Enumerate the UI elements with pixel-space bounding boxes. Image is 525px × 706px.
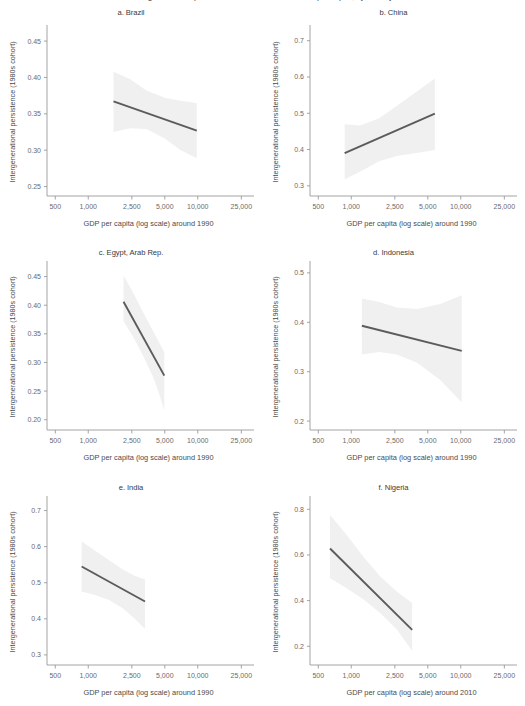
fit-line-egypt bbox=[124, 302, 165, 376]
x-tick-label: 5,000 bbox=[156, 203, 174, 210]
x-tick-label: 25,000 bbox=[231, 437, 253, 444]
x-tick-label: 2,500 bbox=[123, 437, 141, 444]
y-tick-label: 0.40 bbox=[27, 302, 41, 309]
y-tick-label: 0.5 bbox=[294, 110, 304, 117]
confidence-band-egypt bbox=[124, 275, 165, 410]
y-tick-label: 0.25 bbox=[27, 388, 41, 395]
y-tick-label: 0.4 bbox=[294, 319, 304, 326]
panel-grid: a. Brazil0.250.300.350.400.455001,0002,5… bbox=[0, 0, 525, 706]
x-tick-label: 1,000 bbox=[79, 672, 97, 679]
x-tick-label: 5,000 bbox=[156, 437, 174, 444]
y-tick-label: 0.2 bbox=[294, 643, 304, 650]
x-tick-label: 25,000 bbox=[494, 203, 516, 210]
x-tick-label: 5,000 bbox=[156, 672, 174, 679]
x-tick-label: 5,000 bbox=[419, 203, 437, 210]
y-axis-title: Intergenerational persistence (1980s coh… bbox=[8, 41, 17, 182]
y-tick-label: 0.4 bbox=[294, 597, 304, 604]
x-tick-label: 25,000 bbox=[494, 437, 516, 444]
x-tick-label: 500 bbox=[49, 203, 61, 210]
y-tick-label: 0.30 bbox=[27, 147, 41, 154]
x-tick-label: 500 bbox=[312, 672, 324, 679]
x-tick-label: 500 bbox=[312, 437, 324, 444]
confidence-band-nigeria bbox=[330, 515, 412, 651]
x-tick-label: 10,000 bbox=[187, 672, 209, 679]
y-tick-label: 0.6 bbox=[294, 551, 304, 558]
fit-line-nigeria bbox=[330, 549, 412, 630]
y-axis-title: Intergenerational persistence (1980s coh… bbox=[8, 511, 17, 652]
chart-svg-nigeria: 0.20.40.60.85001,0002,5005,00010,00025,0… bbox=[262, 475, 525, 706]
x-tick-label: 500 bbox=[49, 437, 61, 444]
y-tick-label: 0.7 bbox=[294, 37, 304, 44]
confidence-band-brazil bbox=[113, 72, 196, 159]
y-axis-title: Intergenerational persistence (1980s coh… bbox=[8, 276, 17, 417]
x-tick-label: 5,000 bbox=[419, 437, 437, 444]
chart-panel-china: b. China0.30.40.50.60.75001,0002,5005,00… bbox=[262, 0, 525, 240]
confidence-band-indonesia bbox=[362, 295, 462, 402]
y-tick-label: 0.2 bbox=[294, 418, 304, 425]
x-tick-label: 500 bbox=[312, 203, 324, 210]
x-tick-label: 500 bbox=[49, 672, 61, 679]
chart-svg-china: 0.30.40.50.60.75001,0002,5005,00010,0002… bbox=[262, 0, 525, 240]
x-axis-title: GDP per capita (log scale) around 2010 bbox=[346, 688, 476, 697]
y-tick-label: 0.45 bbox=[27, 273, 41, 280]
x-tick-label: 1,000 bbox=[342, 203, 360, 210]
x-tick-label: 25,000 bbox=[494, 672, 516, 679]
y-tick-label: 0.5 bbox=[31, 579, 41, 586]
y-tick-label: 0.7 bbox=[31, 507, 41, 514]
chart-panel-egypt: c. Egypt, Arab Rep.0.200.250.300.350.400… bbox=[0, 240, 262, 475]
x-axis-title: GDP per capita (log scale) around 1990 bbox=[83, 453, 213, 462]
x-tick-label: 1,000 bbox=[342, 672, 360, 679]
chart-panel-brazil: a. Brazil0.250.300.350.400.455001,0002,5… bbox=[0, 0, 262, 240]
x-tick-label: 25,000 bbox=[231, 203, 253, 210]
chart-svg-brazil: 0.250.300.350.400.455001,0002,5005,00010… bbox=[0, 0, 262, 240]
confidence-band-china bbox=[345, 78, 435, 179]
x-axis-title: GDP per capita (log scale) around 1990 bbox=[346, 453, 476, 462]
x-axis-title: GDP per capita (log scale) around 1990 bbox=[83, 219, 213, 228]
y-axis-title: Intergenerational persistence (1980s coh… bbox=[271, 511, 280, 652]
x-tick-label: 10,000 bbox=[450, 672, 472, 679]
chart-svg-indonesia: 0.20.30.40.55001,0002,5005,00010,00025,0… bbox=[262, 240, 525, 475]
y-tick-label: 0.3 bbox=[294, 182, 304, 189]
y-tick-label: 0.35 bbox=[27, 110, 41, 117]
y-tick-label: 0.40 bbox=[27, 74, 41, 81]
y-tick-label: 0.5 bbox=[294, 269, 304, 276]
y-tick-label: 0.8 bbox=[294, 506, 304, 513]
x-axis-title: GDP per capita (log scale) around 1990 bbox=[346, 219, 476, 228]
x-tick-label: 2,500 bbox=[386, 203, 404, 210]
y-tick-label: 0.30 bbox=[27, 359, 41, 366]
x-tick-label: 2,500 bbox=[386, 437, 404, 444]
x-tick-label: 25,000 bbox=[231, 672, 253, 679]
confidence-band-india bbox=[82, 542, 145, 629]
y-axis-title: Intergenerational persistence (1980s coh… bbox=[271, 276, 280, 417]
x-tick-label: 2,500 bbox=[123, 672, 141, 679]
y-tick-label: 0.6 bbox=[294, 73, 304, 80]
y-tick-label: 0.35 bbox=[27, 330, 41, 337]
x-tick-label: 10,000 bbox=[187, 437, 209, 444]
x-tick-label: 10,000 bbox=[450, 203, 472, 210]
chart-svg-india: 0.30.40.50.60.75001,0002,5005,00010,0002… bbox=[0, 475, 262, 706]
chart-panel-nigeria: f. Nigeria0.20.40.60.85001,0002,5005,000… bbox=[262, 475, 525, 706]
y-tick-label: 0.45 bbox=[27, 38, 41, 45]
y-tick-label: 0.4 bbox=[294, 146, 304, 153]
chart-svg-egypt: 0.200.250.300.350.400.455001,0002,5005,0… bbox=[0, 240, 262, 475]
y-tick-label: 0.6 bbox=[31, 543, 41, 550]
y-tick-label: 0.4 bbox=[31, 615, 41, 622]
y-tick-label: 0.20 bbox=[27, 416, 41, 423]
chart-panel-indonesia: d. Indonesia0.20.30.40.55001,0002,5005,0… bbox=[262, 240, 525, 475]
x-tick-label: 5,000 bbox=[419, 672, 437, 679]
x-tick-label: 2,500 bbox=[386, 672, 404, 679]
chart-panel-india: e. India0.30.40.50.60.75001,0002,5005,00… bbox=[0, 475, 262, 706]
x-tick-label: 2,500 bbox=[123, 203, 141, 210]
y-tick-label: 0.3 bbox=[31, 651, 41, 658]
y-tick-label: 0.25 bbox=[27, 183, 41, 190]
x-tick-label: 1,000 bbox=[342, 437, 360, 444]
x-tick-label: 10,000 bbox=[450, 437, 472, 444]
x-tick-label: 1,000 bbox=[79, 203, 97, 210]
x-tick-label: 10,000 bbox=[187, 203, 209, 210]
x-tick-label: 1,000 bbox=[79, 437, 97, 444]
y-axis-title: Intergenerational persistence (1980s coh… bbox=[271, 41, 280, 182]
y-tick-label: 0.3 bbox=[294, 368, 304, 375]
x-axis-title: GDP per capita (log scale) around 1990 bbox=[83, 688, 213, 697]
